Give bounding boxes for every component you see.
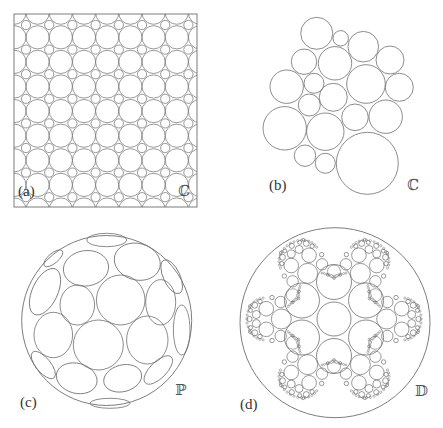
circle	[142, 173, 165, 196]
circle	[404, 297, 406, 299]
circle	[68, 20, 77, 29]
circle	[377, 309, 397, 329]
circle	[369, 365, 384, 380]
circle	[408, 311, 416, 319]
circle	[284, 258, 299, 273]
panel-c-space-symbol: ℙ	[175, 383, 186, 398]
circle	[374, 334, 377, 337]
circle	[359, 392, 365, 398]
panel-a-space-symbol: ℂ	[178, 184, 190, 199]
panel-d-disk-packing	[240, 228, 430, 418]
circle	[142, 1, 165, 24]
circle	[293, 395, 295, 397]
circle	[383, 254, 389, 260]
circle	[340, 368, 351, 379]
circle	[96, 26, 119, 49]
circle	[165, 1, 188, 24]
circle	[252, 311, 260, 319]
circle	[350, 390, 352, 392]
circle	[373, 241, 375, 243]
circle	[246, 314, 248, 316]
circle	[321, 272, 323, 274]
circle	[342, 104, 369, 131]
circle	[21, 143, 30, 152]
ellipse	[146, 280, 176, 325]
circle	[96, 1, 119, 24]
circle	[301, 17, 333, 49]
circle	[372, 298, 374, 300]
circle	[316, 368, 327, 379]
circle	[68, 94, 77, 103]
circle	[184, 94, 193, 103]
circle	[355, 394, 357, 396]
panel-b-circle-packing	[263, 17, 413, 194]
circle	[114, 94, 123, 103]
circle	[369, 258, 384, 273]
circle	[287, 250, 295, 258]
circle	[72, 26, 95, 49]
circle	[119, 124, 142, 147]
panel-c-ellipse-packing-sphere	[22, 233, 192, 408]
circle	[91, 94, 100, 103]
ellipse	[101, 360, 145, 396]
circle	[381, 360, 385, 364]
circle	[291, 49, 316, 74]
circle	[262, 297, 264, 299]
circle	[298, 94, 320, 116]
circle	[373, 250, 381, 258]
circle	[96, 50, 119, 73]
circle	[404, 339, 406, 341]
circle	[49, 26, 72, 49]
circle	[352, 248, 367, 263]
circle	[114, 143, 123, 152]
ellipse	[127, 316, 168, 364]
circle	[21, 168, 30, 177]
circle	[294, 145, 315, 166]
circle	[184, 168, 193, 177]
circle	[137, 70, 146, 79]
circle	[323, 273, 325, 275]
circle	[96, 75, 119, 98]
circle	[349, 283, 384, 318]
circle	[336, 132, 398, 194]
circle	[49, 1, 72, 24]
circle	[45, 20, 54, 29]
circle	[49, 75, 72, 98]
circle	[45, 143, 54, 152]
circle	[72, 124, 95, 147]
circle	[355, 242, 357, 244]
circle	[354, 390, 358, 394]
circle	[137, 193, 146, 202]
circle	[68, 45, 77, 54]
circle	[287, 305, 289, 307]
circle	[350, 246, 352, 248]
circle	[343, 363, 345, 365]
circle	[161, 94, 170, 103]
circle	[142, 100, 165, 123]
circle	[279, 369, 281, 371]
circle	[161, 70, 170, 79]
ellipse	[156, 257, 187, 297]
circle	[26, 26, 49, 49]
ellipse	[41, 247, 65, 270]
circle	[377, 304, 379, 306]
circle	[26, 75, 49, 98]
circle	[299, 285, 301, 287]
circle	[302, 375, 317, 390]
circle	[91, 119, 100, 128]
circle	[388, 375, 390, 377]
ellipse	[34, 312, 73, 357]
circle	[68, 143, 77, 152]
ellipse	[53, 358, 101, 398]
circle	[279, 378, 285, 384]
circle	[344, 252, 348, 256]
ellipse	[96, 275, 145, 325]
circle	[303, 392, 309, 398]
circle	[373, 380, 381, 388]
circle	[114, 20, 123, 29]
circle	[282, 360, 286, 364]
circle	[408, 320, 416, 328]
circle	[298, 287, 300, 289]
circle	[119, 1, 142, 24]
circle	[291, 301, 294, 304]
